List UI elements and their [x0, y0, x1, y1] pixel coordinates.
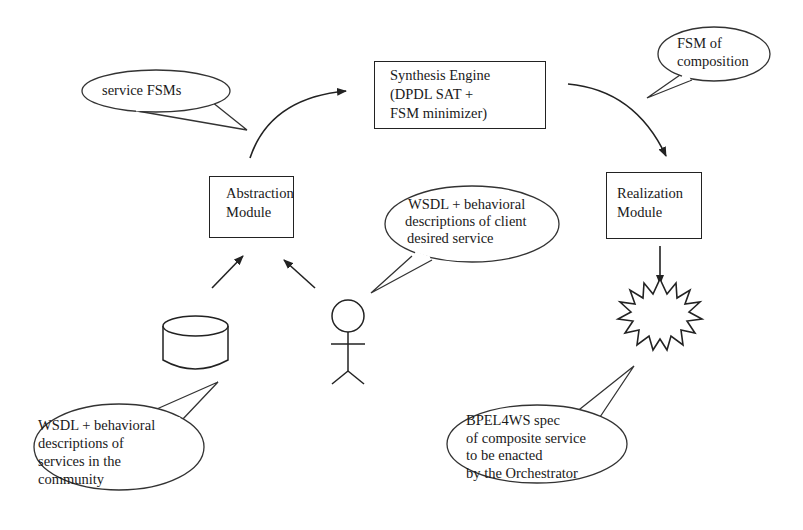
synthesis-engine-line-1: Synthesis Engine: [390, 66, 490, 85]
realization-module-line-2: Module: [617, 203, 683, 222]
callout-bpel-spec-line-4: by the Orchestrator: [466, 465, 586, 483]
edge-database-to-abstraction: [212, 256, 243, 288]
callout-client-description-line-1: WSDL + behavioral: [405, 196, 527, 213]
edge-client-to-abstraction: [284, 260, 315, 288]
callout-service-fsms: service FSMs: [102, 81, 181, 100]
callout-bpel-spec: BPEL4WS spec of composite service to be …: [466, 412, 586, 482]
callout-fsm-composition-line-1: FSM of: [677, 34, 749, 52]
realization-module-label: Realization Module: [617, 184, 683, 222]
callout-client-description-line-2: descriptions of client: [405, 213, 527, 230]
realization-module-line-1: Realization: [617, 184, 683, 203]
callout-service-fsms-line-1: service FSMs: [102, 81, 181, 100]
callout-community-services-line-3: services in the: [38, 452, 155, 470]
callout-fsm-composition-line-2: composition: [677, 52, 749, 70]
callout-bpel-spec-line-1: BPEL4WS spec: [466, 412, 586, 430]
callout-bpel-spec-line-2: of composite service: [466, 430, 586, 448]
synthesis-engine-label: Synthesis Engine (DPDL SAT + FSM minimiz…: [390, 66, 490, 123]
callout-client-description: WSDL + behavioral descriptions of client…: [405, 196, 527, 247]
abstraction-module-line-1: Abstraction: [226, 184, 294, 203]
callout-client-description-line-3: desired service: [405, 230, 527, 247]
callout-bpel-spec-line-3: to be enacted: [466, 447, 586, 465]
client-actor-icon: [331, 300, 365, 384]
callout-community-services: WSDL + behavioral descriptions of servic…: [38, 416, 155, 488]
starburst-icon: [618, 279, 702, 350]
callout-community-services-line-4: community: [38, 470, 155, 488]
callout-community-services-line-2: descriptions of: [38, 434, 155, 452]
callout-community-services-line-1: WSDL + behavioral: [38, 416, 155, 434]
synthesis-engine-line-3: FSM minimizer): [390, 104, 490, 123]
callout-fsm-composition: FSM of composition: [677, 34, 749, 70]
database-icon: [163, 316, 228, 369]
synthesis-engine-line-2: (DPDL SAT +: [390, 85, 490, 104]
abstraction-module-line-2: Module: [226, 203, 294, 222]
abstraction-module-label: Abstraction Module: [226, 184, 294, 222]
edge-abstraction-to-synthesis: [250, 91, 346, 158]
callout-service-fsms-shape: [82, 70, 247, 130]
